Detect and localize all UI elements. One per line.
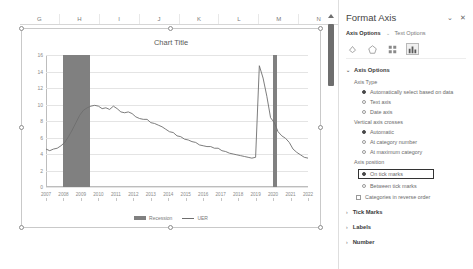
section-labels-label: Labels <box>353 224 371 230</box>
x-axis-tick-mark <box>63 198 64 201</box>
resize-handle-top-right[interactable] <box>318 26 323 31</box>
tab-text-options[interactable]: Text Options <box>395 30 426 36</box>
column-header-h[interactable]: H <box>60 14 100 24</box>
radio-label-between-tick-marks: Between tick marks <box>370 183 417 189</box>
radio-between-tick-marks[interactable]: Between tick marks <box>362 183 466 189</box>
resize-handle-top-left[interactable] <box>19 26 24 31</box>
y-axis-tick-label: 10 <box>37 102 43 108</box>
y-axis-tick-label: 16 <box>37 52 43 58</box>
gridline <box>46 187 308 188</box>
y-axis-tick-label: 14 <box>37 69 43 75</box>
checkbox-label-reverse-order: Categories in reverse order <box>365 194 430 200</box>
x-axis-tick-mark <box>291 198 292 201</box>
legend-item-uer[interactable]: UER <box>182 215 208 221</box>
pane-icon-toolbar <box>346 43 466 59</box>
section-number[interactable]: › Number <box>346 239 466 245</box>
chart-title[interactable]: Chart Title <box>22 38 320 47</box>
y-axis-tick-label: 2 <box>40 168 43 174</box>
radio-on-tick-marks[interactable]: On tick marks <box>358 169 434 179</box>
radio-label-date-axis: Date axis <box>370 109 392 115</box>
y-axis-tick-label: 0 <box>40 184 43 190</box>
resize-handle-middle-right[interactable] <box>318 125 323 130</box>
column-header-j[interactable]: J <box>140 14 180 24</box>
radio-at-category-number[interactable]: At category number <box>362 139 466 145</box>
scrollbar-thumb[interactable] <box>328 24 334 86</box>
x-axis-tick-label: 2020 <box>268 192 278 197</box>
chevron-down-icon-axis-options: ⌄ <box>346 67 350 73</box>
legend-label-uer: UER <box>197 215 208 221</box>
radio-label-text-axis: Text axis <box>370 99 391 105</box>
fill-line-icon[interactable] <box>346 43 359 55</box>
checkbox-indicator-reverse-order <box>356 195 361 200</box>
x-axis-tick-mark <box>238 198 239 201</box>
vertical-scrollbar[interactable] <box>328 14 334 262</box>
radio-text-axis[interactable]: Text axis <box>362 99 466 105</box>
y-axis-tick-label: 6 <box>40 135 43 141</box>
x-axis-tick-mark <box>273 198 274 201</box>
scroll-up-arrow-icon[interactable] <box>328 14 334 18</box>
effects-icon[interactable] <box>366 43 379 55</box>
x-axis-tick-mark <box>203 198 204 201</box>
resize-handle-bottom-center[interactable] <box>168 225 173 230</box>
section-tick-marks-label: Tick Marks <box>353 209 383 215</box>
x-axis-tick-mark <box>221 198 222 201</box>
chevron-right-icon-labels: › <box>346 224 348 230</box>
radio-indicator-automatic <box>362 130 366 134</box>
x-axis-tick-mark <box>116 198 117 201</box>
radio-date-axis[interactable]: Date axis <box>362 109 466 115</box>
y-axis-tick-label: 8 <box>40 118 43 124</box>
x-axis-tick-label: 2015 <box>181 192 191 197</box>
column-header-k[interactable]: K <box>180 14 220 24</box>
y-axis-tick-label: 4 <box>40 151 43 157</box>
x-axis-tick-label: 2013 <box>146 192 156 197</box>
section-axis-options-label: Axis Options <box>354 67 390 73</box>
x-axis-tick-mark <box>81 198 82 201</box>
resize-handle-middle-left[interactable] <box>19 125 24 130</box>
x-axis-tick-label: 2019 <box>250 192 260 197</box>
legend-item-recession[interactable]: Recession <box>134 215 172 221</box>
column-header-g[interactable]: G <box>20 14 60 24</box>
column-header-m[interactable]: M <box>259 14 299 24</box>
resize-handle-top-center[interactable] <box>168 26 173 31</box>
radio-label-at-category-number: At category number <box>370 139 417 145</box>
axis-position-label: Axis position <box>354 159 466 165</box>
close-icon[interactable]: ✕ <box>460 14 466 21</box>
x-axis-tick-label: 2021 <box>285 192 295 197</box>
section-labels[interactable]: › Labels <box>346 224 466 230</box>
radio-label-automatic: Automatic <box>370 129 394 135</box>
radio-indicator-at-category-number <box>362 140 366 144</box>
size-properties-icon[interactable] <box>386 43 399 55</box>
column-header-l[interactable]: L <box>219 14 259 24</box>
resize-handle-bottom-left[interactable] <box>19 225 24 230</box>
plot-area[interactable]: 0246810121416 <box>46 55 308 187</box>
chart-legend[interactable]: Recession UER <box>22 215 320 221</box>
tab-axis-options[interactable]: Axis Options <box>346 30 381 36</box>
axis-options-icon[interactable] <box>406 43 419 55</box>
x-axis-tick-mark <box>151 198 152 201</box>
pane-body: ⌄ Axis Options Axis Type Automatically s… <box>346 67 466 245</box>
chevron-down-icon[interactable]: ⌄ <box>447 14 453 21</box>
chevron-right-icon-number: › <box>346 239 348 245</box>
chart-object[interactable]: Chart Title 0246810121416 20072008200920… <box>21 28 321 228</box>
x-axis-tick-mark <box>186 198 187 201</box>
radio-auto-select[interactable]: Automatically select based on data <box>362 89 466 95</box>
uer-line-series[interactable] <box>46 55 308 187</box>
section-axis-options[interactable]: ⌄ Axis Options <box>346 67 466 73</box>
radio-at-maximum-category[interactable]: At maximum category <box>362 149 466 155</box>
legend-label-recession: Recession <box>149 215 172 221</box>
resize-handle-bottom-right[interactable] <box>318 225 323 230</box>
y-axis-tick-label: 12 <box>37 85 43 91</box>
checkbox-reverse-order[interactable]: Categories in reverse order <box>356 194 466 200</box>
radio-indicator-date-axis <box>362 110 366 114</box>
chevron-down-icon-tabs[interactable]: ⌄ <box>386 31 390 36</box>
column-header-i[interactable]: I <box>100 14 140 24</box>
x-axis-tick-mark <box>256 198 257 201</box>
section-tick-marks[interactable]: › Tick Marks <box>346 209 466 215</box>
radio-indicator-auto-select <box>362 90 366 94</box>
x-axis-labels[interactable]: 2007200820092010201120122013201420152016… <box>46 192 308 201</box>
legend-swatch-uer <box>182 218 194 219</box>
pane-tab-row: Axis Options ⌄ Text Options <box>346 30 466 36</box>
x-axis-tick-label: 2016 <box>198 192 208 197</box>
x-axis-tick-label: 2010 <box>93 192 103 197</box>
radio-automatic[interactable]: Automatic <box>362 129 466 135</box>
